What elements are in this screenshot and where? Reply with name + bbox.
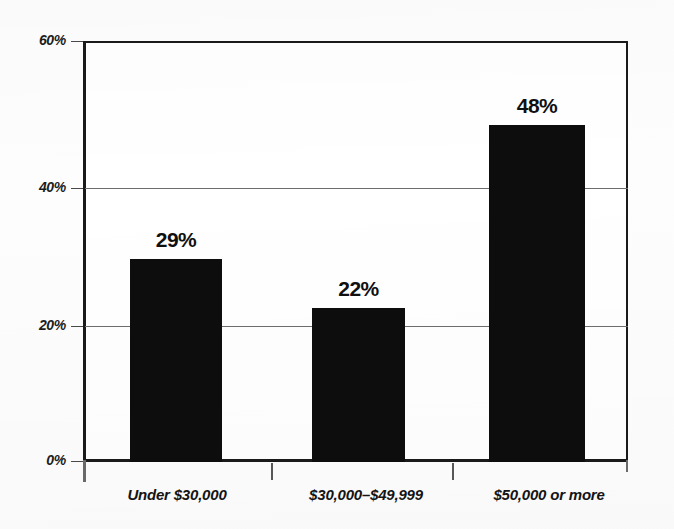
y-tick-mark-60	[71, 41, 83, 42]
x-category-label-3-suffix: or more	[546, 486, 604, 503]
y-tick-label-20: 20%	[39, 318, 66, 332]
y-tick-label-0: 0%	[46, 453, 66, 467]
x-category-label-3-text: $50,000	[493, 486, 546, 503]
bar-value-label-2: 22%	[312, 278, 405, 299]
bar-under-30000	[130, 259, 222, 462]
y-tick-label-40: 40%	[39, 180, 66, 194]
x-category-label-1: Under $30,000	[92, 487, 262, 502]
x-tick-separator-2	[452, 463, 454, 480]
x-axis-overshoot-right	[626, 460, 628, 472]
x-category-label-1-text: Under $30,000	[127, 486, 226, 503]
x-category-label-3: $50,000 or more	[458, 487, 640, 502]
x-category-label-2: $30,000–$49,999	[278, 487, 454, 502]
bar-value-label-3: 48%	[489, 95, 585, 116]
y-axis-overshoot	[83, 460, 86, 482]
bar-value-label-1: 29%	[130, 229, 222, 250]
x-tick-separator-1	[271, 463, 273, 480]
y-tick-mark-0	[71, 461, 83, 462]
y-tick-label-60: 60%	[39, 33, 66, 47]
bar-50000-or-more	[489, 125, 585, 462]
chart-page: 60% 40% 20% 0% 29% 22% 48% Under $30,000…	[0, 0, 674, 529]
y-tick-mark-40	[71, 188, 83, 189]
y-tick-mark-20	[71, 326, 83, 327]
x-category-label-2-text: $30,000–$49,999	[309, 486, 423, 503]
bar-30000-49999	[312, 308, 405, 462]
